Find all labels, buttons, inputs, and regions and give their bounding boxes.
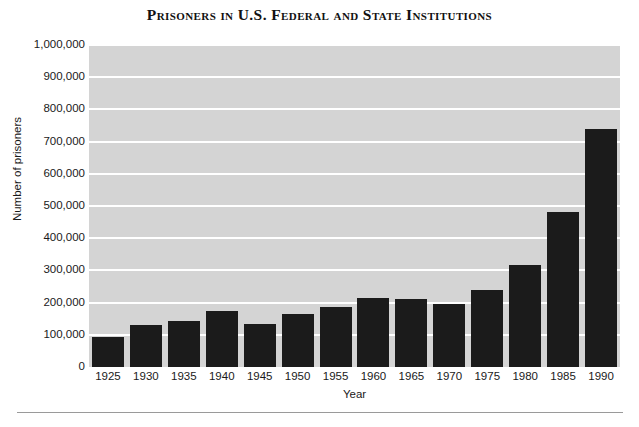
bar: [395, 299, 427, 367]
y-tick-label: 500,000: [0, 200, 85, 212]
bar: [433, 304, 465, 367]
x-tick-label: 1980: [506, 370, 544, 383]
y-tick-label: 900,000: [0, 71, 85, 83]
x-tick-label: 1945: [241, 370, 279, 383]
bar: [92, 337, 124, 367]
bar: [547, 212, 579, 367]
x-tick-label: 1960: [354, 370, 392, 383]
y-tick-label: 700,000: [0, 136, 85, 148]
x-tick-label: 1935: [165, 370, 203, 383]
bar-series: [89, 45, 620, 367]
y-tick-label: 400,000: [0, 232, 85, 244]
chart-figure: Prisoners in U.S. Federal and State Inst…: [0, 0, 639, 427]
bar: [244, 324, 276, 367]
y-tick-label: 0: [0, 361, 85, 373]
y-axis-tick-labels: 0100,000200,000300,000400,000500,000600,…: [0, 45, 85, 367]
x-tick-label: 1965: [392, 370, 430, 383]
bar: [282, 314, 314, 367]
chart-title: Prisoners in U.S. Federal and State Inst…: [0, 6, 639, 24]
y-tick-label: 200,000: [0, 297, 85, 309]
x-tick-label: 1930: [127, 370, 165, 383]
footer-divider: [17, 412, 623, 413]
bar: [130, 325, 162, 367]
x-tick-label: 1975: [468, 370, 506, 383]
bar: [206, 311, 238, 367]
y-tick-label: 800,000: [0, 103, 85, 115]
bar: [357, 298, 389, 367]
x-tick-label: 1970: [430, 370, 468, 383]
y-tick-label: 100,000: [0, 329, 85, 341]
bar: [320, 307, 352, 367]
x-axis-tick-labels: 1925193019351940194519501955196019651970…: [89, 370, 620, 386]
x-tick-label: 1985: [544, 370, 582, 383]
bar: [168, 321, 200, 367]
bar: [471, 290, 503, 367]
bar: [509, 265, 541, 367]
y-tick-label: 300,000: [0, 264, 85, 276]
x-axis-title: Year: [89, 388, 620, 400]
bar: [585, 129, 617, 367]
x-tick-label: 1940: [203, 370, 241, 383]
y-tick-label: 1,000,000: [0, 39, 85, 51]
x-tick-label: 1950: [279, 370, 317, 383]
x-tick-label: 1990: [582, 370, 620, 383]
x-tick-label: 1925: [89, 370, 127, 383]
y-tick-label: 600,000: [0, 168, 85, 180]
x-tick-label: 1955: [317, 370, 355, 383]
plot-area: [89, 45, 620, 367]
